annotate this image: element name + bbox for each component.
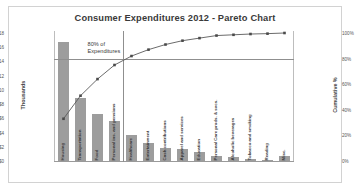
eighty-percent-annotation: 80% of Expenditures [88,41,121,55]
y-axis-tick-label: $0 [0,159,4,164]
plot-area: $0$2$4$6$8$10$12$14$16$18 0%20%40%60%80%… [54,31,294,162]
y-axis-tick-label: $10 [0,87,4,92]
y-axis-tick-label: $6 [0,116,4,121]
y2-axis-title: Cumulative % [332,77,338,112]
cumulative-marker [215,34,218,37]
cumulative-marker [113,64,116,67]
y-axis-tick-label: $16 [0,45,4,50]
y2-axis-tick-label: 80% [342,56,359,61]
x-axis-category-label: Personal Care prods. & svcs. [214,99,218,160]
cumulative-marker [147,48,150,51]
x-axis-category-label: Cash contributions [163,120,167,160]
chart-frame: Consumer Expenditures 2012 - Pareto Char… [8,6,342,183]
cumulative-marker [181,39,184,42]
chart-title: Consumer Expenditures 2012 - Pareto Char… [9,13,341,23]
y-axis-tick-label: $4 [0,130,4,135]
y2-axis-tick-label: 60% [342,82,359,87]
cumulative-marker [130,55,133,58]
x-axis-category-label: Housing [61,142,65,160]
y-axis-tick-label: $8 [0,102,4,107]
cumulative-marker [62,117,65,120]
annotation-line-1: 80% of [88,41,121,48]
y2-axis-tick-label: 20% [342,133,359,138]
cumulative-marker [249,33,252,36]
x-axis-category-label: Alcoholic beverages [231,117,235,160]
cumulative-marker [79,94,82,97]
x-axis-category-label: Reading [265,143,269,160]
cumulative-marker [283,32,286,35]
x-axis-category-label: Healthcare [129,138,133,160]
y2-axis-tick-label: 40% [342,107,359,112]
y-axis-tick-label: $14 [0,59,4,64]
x-axis-category-label: Entertainment [146,130,150,160]
cumulative-marker [96,78,99,81]
x-axis-category-label: Tobacco and smoking [248,114,252,160]
cumulative-marker [164,43,167,46]
cumulative-marker [266,32,269,35]
y-axis-tick-label: $12 [0,73,4,78]
cumulative-marker [198,37,201,40]
y-axis-title: Thousands [20,80,26,109]
cumulative-marker [232,33,235,36]
x-axis-category-label: Education [197,139,201,160]
annotation-line-2: Expenditures [88,48,121,55]
y-axis-tick-label: $2 [0,144,4,149]
y-axis-tick-label: $18 [0,31,4,36]
x-axis-category-label: Transportation [78,129,82,160]
x-axis-category-label: Apparel and services [180,116,184,160]
y2-axis-tick-label: 100% [342,31,359,36]
x-axis-category-label: Personal ins. and pensions [112,103,116,160]
x-axis-category-label: Food [95,149,99,160]
y2-axis-tick-label: 0% [342,159,359,164]
x-axis-category-label: Misc. [282,149,286,160]
